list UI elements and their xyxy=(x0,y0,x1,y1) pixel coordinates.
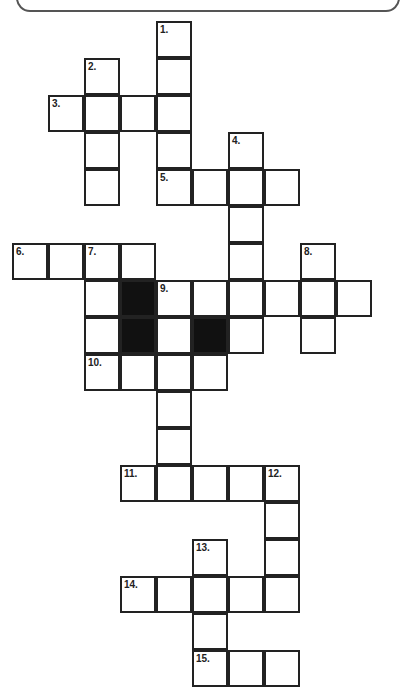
clue-number: 13. xyxy=(196,542,210,553)
crossword-cell[interactable] xyxy=(156,317,192,354)
crossword-cell[interactable] xyxy=(264,576,300,613)
crossword-cell[interactable]: 7. xyxy=(84,243,120,280)
crossword-cell[interactable] xyxy=(84,280,120,317)
crossword-cell[interactable] xyxy=(192,169,228,206)
crossword-cell[interactable] xyxy=(192,576,228,613)
crossword-cell[interactable] xyxy=(192,280,228,317)
crossword-cell[interactable]: 5. xyxy=(156,169,192,206)
crossword-cell[interactable] xyxy=(84,95,120,132)
crossword-cell[interactable] xyxy=(156,58,192,95)
clue-number: 12. xyxy=(268,468,282,479)
clue-number: 1. xyxy=(160,24,168,35)
crossword-cell[interactable] xyxy=(192,465,228,502)
crossword-block-cell xyxy=(120,317,156,354)
clue-number: 11. xyxy=(124,468,137,479)
crossword-cell[interactable] xyxy=(84,169,120,206)
crossword-cell[interactable] xyxy=(156,576,192,613)
crossword-cell[interactable]: 15. xyxy=(192,650,228,687)
crossword-block-cell xyxy=(192,317,228,354)
crossword-cell[interactable] xyxy=(84,317,120,354)
crossword-cell[interactable] xyxy=(228,576,264,613)
crossword-cell[interactable] xyxy=(336,280,372,317)
crossword-cell[interactable]: 12. xyxy=(264,465,300,502)
crossword-cell[interactable]: 13. xyxy=(192,539,228,576)
crossword-cell[interactable] xyxy=(192,354,228,391)
crossword-cell[interactable] xyxy=(228,206,264,243)
clue-number: 4. xyxy=(232,135,240,146)
crossword-cell[interactable] xyxy=(156,465,192,502)
crossword-cell[interactable] xyxy=(264,169,300,206)
crossword-cell[interactable] xyxy=(228,317,264,354)
crossword-cell[interactable] xyxy=(120,243,156,280)
crossword-cell[interactable] xyxy=(192,613,228,650)
crossword-cell[interactable] xyxy=(48,243,84,280)
crossword-cell[interactable]: 8. xyxy=(300,243,336,280)
crossword-cell[interactable]: 3. xyxy=(48,95,84,132)
crossword-cell[interactable]: 10. xyxy=(84,354,120,391)
crossword-cell[interactable]: 14. xyxy=(120,576,156,613)
clue-number: 8. xyxy=(304,246,312,257)
clue-number: 3. xyxy=(52,98,60,109)
crossword-cell[interactable]: 6. xyxy=(12,243,48,280)
crossword-block-cell xyxy=(120,280,156,317)
crossword-cell[interactable] xyxy=(156,95,192,132)
crossword-cell[interactable] xyxy=(228,169,264,206)
crossword-cell[interactable] xyxy=(228,650,264,687)
crossword-cell[interactable] xyxy=(156,428,192,465)
crossword-cell[interactable] xyxy=(300,280,336,317)
crossword-cell[interactable]: 11. xyxy=(120,465,156,502)
crossword-cell[interactable] xyxy=(120,95,156,132)
crossword-cell[interactable] xyxy=(264,280,300,317)
clue-number: 15. xyxy=(196,653,210,664)
clue-number: 5. xyxy=(160,172,168,183)
crossword-cell[interactable] xyxy=(156,132,192,169)
crossword-cell[interactable] xyxy=(264,502,300,539)
clue-number: 9. xyxy=(160,283,168,294)
crossword-cell[interactable] xyxy=(156,391,192,428)
crossword-cell[interactable]: 1. xyxy=(156,21,192,58)
crossword-cell[interactable] xyxy=(264,539,300,576)
clue-number: 7. xyxy=(88,246,96,257)
crossword-cell[interactable] xyxy=(84,132,120,169)
crossword-cell[interactable] xyxy=(228,280,264,317)
crossword-cell[interactable] xyxy=(300,317,336,354)
clue-number: 14. xyxy=(124,579,138,590)
clue-number: 10. xyxy=(88,357,102,368)
crossword-cell[interactable] xyxy=(228,465,264,502)
crossword-cell[interactable]: 9. xyxy=(156,280,192,317)
clue-number: 6. xyxy=(16,246,24,257)
crossword-cell[interactable]: 4. xyxy=(228,132,264,169)
crossword-cell[interactable] xyxy=(156,354,192,391)
crossword-cell[interactable] xyxy=(228,243,264,280)
clue-number: 2. xyxy=(88,61,96,72)
crossword-cell[interactable] xyxy=(264,650,300,687)
crossword-cell[interactable] xyxy=(120,354,156,391)
crossword-cell[interactable]: 2. xyxy=(84,58,120,95)
